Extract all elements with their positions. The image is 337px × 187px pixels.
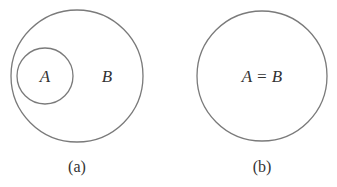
- venn-diagrams: A B (a) A = B (b): [0, 0, 337, 187]
- set-b-label: B: [102, 67, 113, 86]
- diagram-a: A B (a): [11, 10, 143, 176]
- caption-b: (b): [253, 158, 272, 176]
- diagram-b: A = B (b): [197, 11, 327, 176]
- set-a-label: A: [39, 67, 51, 86]
- set-b-circle: [11, 10, 143, 142]
- equality-label: A = B: [241, 67, 283, 86]
- caption-a: (a): [68, 158, 86, 176]
